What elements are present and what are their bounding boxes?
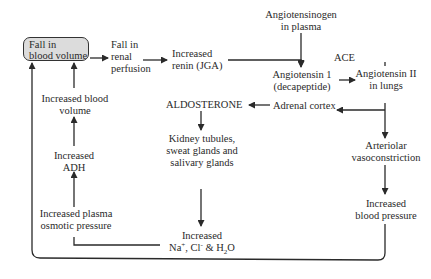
node-label: Arteriolar (344, 140, 428, 152)
node-fall-in-blood-volume: Fall in blood volume (23, 37, 89, 61)
node-kidney-tubules: Kidney tubules, sweat glands and salivar… (160, 133, 244, 169)
node-label-ions: Na+, Cl- & H2O (162, 242, 242, 254)
node-label: Increased (348, 198, 424, 210)
node-label: ALDOSTERONE (166, 99, 242, 111)
node-label: (decapeptide) (268, 81, 336, 93)
node-label: salivary glands (160, 157, 244, 169)
node-angiotensin-1: Angiotensin 1 (decapeptide) (268, 69, 336, 93)
node-label: ADH (44, 162, 104, 174)
chloride-label: , Cl (185, 242, 200, 253)
node-label: Increased (44, 150, 104, 162)
node-label: renin (JGA) (172, 60, 222, 72)
node-label: Adrenal cortex (273, 100, 336, 112)
node-label: Fall in (29, 39, 88, 50)
node-increased-ions-water: Increased Na+, Cl- & H2O (162, 230, 242, 254)
node-label: Angiotensinogen (263, 9, 339, 21)
node-angiotensin-2: Angiotensin II in lungs (355, 68, 417, 92)
node-label: Increased (172, 48, 222, 60)
node-aldosterone: ALDOSTERONE (166, 99, 242, 111)
node-increased-blood-volume: Increased blood volume (38, 93, 112, 117)
node-label: Fall in (111, 39, 151, 51)
node-label: Angiotensin 1 (268, 69, 336, 81)
node-label: sweat glands and (160, 145, 244, 157)
node-increased-plasma-osmotic-pressure: Increased plasma osmotic pressure (34, 208, 118, 232)
node-label: blood pressure (348, 210, 424, 222)
node-label: osmotic pressure (34, 220, 118, 232)
node-label: ACE (334, 52, 355, 64)
node-label: renal (111, 51, 151, 63)
node-label: Kidney tubules, (160, 133, 244, 145)
node-label: in plasma (263, 21, 339, 33)
node-increased-adh: Increased ADH (44, 150, 104, 174)
node-label: Increased blood (38, 93, 112, 105)
node-angiotensinogen: Angiotensinogen in plasma (263, 9, 339, 33)
node-label: Increased plasma (34, 208, 118, 220)
water-label: & H (203, 242, 224, 253)
node-label: perfusion (111, 63, 151, 75)
water-oxygen: O (227, 242, 235, 253)
node-increased-renin: Increased renin (JGA) (172, 48, 222, 72)
node-label: blood volume (29, 50, 88, 61)
raas-flowchart: Fall in blood volume Fall in renal perfu… (0, 0, 431, 279)
node-fall-in-renal-perfusion: Fall in renal perfusion (111, 39, 151, 75)
node-label: volume (38, 105, 112, 117)
sodium-label: Na (169, 242, 181, 253)
node-label: vasoconstriction (344, 152, 428, 164)
node-label: Angiotensin II (355, 68, 417, 80)
enzyme-ace-label: ACE (334, 52, 355, 64)
node-arteriolar-vasoconstriction: Arteriolar vasoconstriction (344, 140, 428, 164)
node-increased-blood-pressure: Increased blood pressure (348, 198, 424, 222)
node-label: in lungs (355, 80, 417, 92)
node-adrenal-cortex: Adrenal cortex (273, 100, 336, 112)
